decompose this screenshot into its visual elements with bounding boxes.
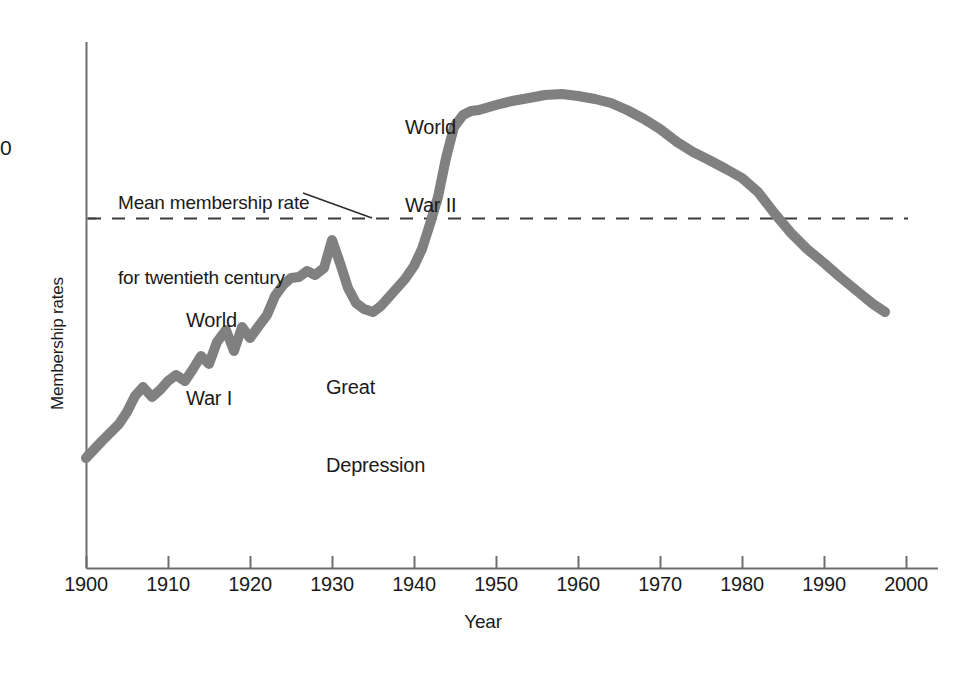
x-tick-label-1970: 1970 bbox=[620, 573, 700, 596]
x-tick-label-1960: 1960 bbox=[538, 573, 618, 596]
annotation-world-war-two-line2: War II bbox=[405, 192, 456, 218]
x-tick-label-1900: 1900 bbox=[46, 573, 126, 596]
annotation-great-depression: Great Depression bbox=[326, 322, 425, 530]
mean-annotation-leader-line bbox=[303, 193, 372, 218]
annotation-world-war-one-line2: War I bbox=[186, 385, 237, 411]
x-tick-label-1930: 1930 bbox=[292, 573, 372, 596]
x-tick-label-1980: 1980 bbox=[702, 573, 782, 596]
x-tick-label-1910: 1910 bbox=[128, 573, 208, 596]
y-axis-title: Membership rates bbox=[48, 277, 68, 410]
annotation-world-war-one: World War I bbox=[186, 255, 237, 463]
x-axis-ticks bbox=[87, 556, 907, 568]
x-tick-label-1950: 1950 bbox=[456, 573, 536, 596]
annotation-mean-membership-rate-line1: Mean membership rate bbox=[118, 190, 309, 215]
x-axis-title: Year bbox=[464, 611, 502, 633]
y-axis-tick-label-0: 0 bbox=[0, 136, 11, 160]
x-tick-label-1940: 1940 bbox=[374, 573, 454, 596]
annotation-world-war-one-line1: World bbox=[186, 307, 237, 333]
annotation-great-depression-line2: Depression bbox=[326, 452, 425, 478]
annotation-world-war-two: World War II bbox=[405, 62, 456, 270]
x-tick-label-1920: 1920 bbox=[210, 573, 290, 596]
x-tick-label-1990: 1990 bbox=[784, 573, 864, 596]
annotation-great-depression-line1: Great bbox=[326, 374, 425, 400]
x-tick-label-2000: 2000 bbox=[866, 573, 946, 596]
membership-rates-chart: 0 Membership rates 1900 1910 1920 1930 1… bbox=[0, 0, 969, 679]
annotation-world-war-two-line1: World bbox=[405, 114, 456, 140]
